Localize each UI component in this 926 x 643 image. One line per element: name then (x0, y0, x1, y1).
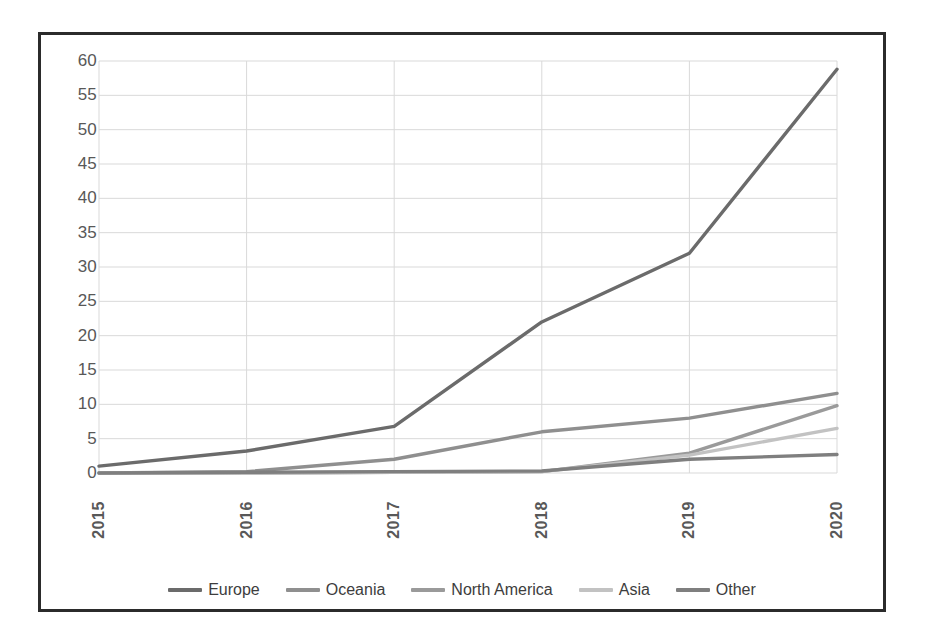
chart-frame: 605550454035302520151050 201520162017201… (38, 32, 886, 612)
legend-item-oceania[interactable]: Oceania (286, 581, 386, 599)
x-axis-tick-label: 2020 (828, 501, 846, 539)
legend-item-other[interactable]: Other (676, 581, 756, 599)
x-axis: 201520162017201820192020 (41, 35, 883, 609)
legend-swatch-icon (579, 588, 613, 592)
plot-area: 605550454035302520151050 201520162017201… (41, 35, 883, 609)
legend-label: Oceania (326, 581, 386, 599)
legend-swatch-icon (168, 588, 202, 592)
legend-label: North America (451, 581, 552, 599)
x-axis-tick-label: 2018 (533, 501, 551, 539)
legend-label: Europe (208, 581, 260, 599)
x-axis-tick-label: 2016 (238, 501, 256, 539)
legend-swatch-icon (411, 588, 445, 592)
chart-legend: EuropeOceaniaNorth AmericaAsiaOther (41, 581, 883, 599)
legend-item-asia[interactable]: Asia (579, 581, 650, 599)
legend-swatch-icon (286, 588, 320, 592)
x-axis-tick-label: 2019 (680, 501, 698, 539)
x-axis-tick-label: 2015 (90, 501, 108, 539)
legend-item-europe[interactable]: Europe (168, 581, 260, 599)
legend-item-north-america[interactable]: North America (411, 581, 552, 599)
legend-label: Other (716, 581, 756, 599)
x-axis-tick-label: 2017 (385, 501, 403, 539)
legend-swatch-icon (676, 588, 710, 592)
legend-label: Asia (619, 581, 650, 599)
